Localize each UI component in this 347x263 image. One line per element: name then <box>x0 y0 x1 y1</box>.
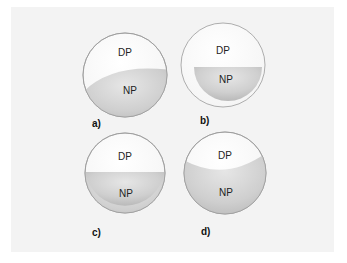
dp-label-b: DP <box>216 45 230 56</box>
np-label-d: NP <box>219 187 233 198</box>
panel-a: DP NP a) <box>80 33 170 129</box>
np-label-c: NP <box>119 188 133 199</box>
dp-label-c: DP <box>118 151 132 162</box>
phase-diagram: DP NP a) DP NP b) DP NP c) DP NP d) <box>0 0 347 263</box>
panel-b: DP NP b) <box>181 23 265 126</box>
caption-c: c) <box>92 227 101 238</box>
panel-c: DP NP c) <box>80 133 170 238</box>
panel-d: DP NP d) <box>180 132 270 237</box>
caption-b: b) <box>200 115 209 126</box>
dp-label-a: DP <box>118 47 132 58</box>
np-label-b: NP <box>219 74 233 85</box>
caption-d: d) <box>201 226 210 237</box>
np-label-a: NP <box>123 85 137 96</box>
caption-a: a) <box>92 118 101 129</box>
dp-label-d: DP <box>218 150 232 161</box>
